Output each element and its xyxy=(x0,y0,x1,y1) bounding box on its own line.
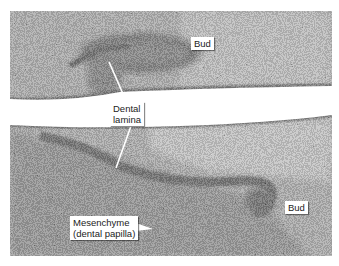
label-text: Dental xyxy=(113,103,141,114)
label-text: Bud xyxy=(288,202,305,213)
micrograph-image xyxy=(10,11,332,256)
micrograph-figure: Bud Dental lamina Bud Mesenchyme (dental… xyxy=(10,11,332,256)
label-dental-lamina: Dental lamina xyxy=(110,102,144,126)
label-text: Mesenchyme xyxy=(73,217,135,228)
label-bud-lower: Bud xyxy=(285,201,308,214)
label-mesenchyme: Mesenchyme (dental papilla) xyxy=(70,216,138,240)
label-bud-upper: Bud xyxy=(191,37,214,50)
label-text: Bud xyxy=(194,38,211,49)
label-text: (dental papilla) xyxy=(73,228,135,239)
label-text: lamina xyxy=(113,114,141,125)
